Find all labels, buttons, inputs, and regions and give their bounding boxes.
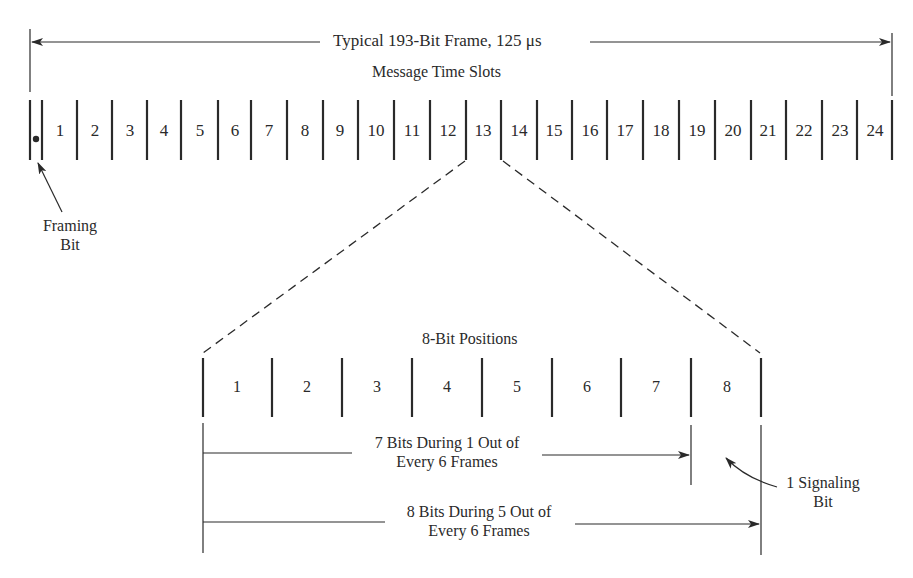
bit-number: 4 [443, 378, 451, 396]
seven-bit-caption: 7 Bits During 1 Out of Every 6 Frames [352, 433, 542, 471]
expansion-dashed-lines [203, 161, 760, 353]
slot-number: 1 [56, 121, 65, 141]
bit-number: 2 [303, 378, 311, 396]
bit-number: 6 [583, 378, 591, 396]
slot-number: 2 [91, 121, 100, 141]
bit-bars [203, 358, 761, 417]
slot-number: 4 [160, 121, 169, 141]
slot-number: 23 [832, 121, 849, 141]
framing-bit-dot [33, 136, 39, 142]
slot-number: 18 [653, 121, 670, 141]
bit-positions-title: 8-Bit Positions [422, 330, 518, 348]
bit-number: 5 [513, 378, 521, 396]
slot-number: 3 [126, 121, 135, 141]
slot-number: 6 [231, 121, 240, 141]
slot-number: 7 [265, 121, 274, 141]
slot-number: 14 [511, 121, 528, 141]
slot-number: 20 [725, 121, 742, 141]
eight-bit-caption: 8 Bits During 5 Out of Every 6 Frames [383, 502, 575, 540]
framing-bit-label: Framing Bit [30, 216, 110, 254]
slot-number: 10 [368, 121, 385, 141]
slot-number: 16 [582, 121, 599, 141]
slot-number-expanded: 13 [475, 121, 492, 141]
slot-number: 24 [867, 121, 884, 141]
seven-bit-caption-line1: 7 Bits During 1 Out of [352, 433, 542, 452]
slot-number: 11 [404, 121, 420, 141]
slot-number: 21 [760, 121, 777, 141]
slot-number: 19 [689, 121, 706, 141]
slot-number: 5 [196, 121, 205, 141]
seven-bit-caption-line2: Every 6 Frames [352, 452, 542, 471]
signaling-bit-arrow [726, 458, 777, 487]
bit-number-signaling: 8 [723, 378, 731, 396]
slot-number: 12 [440, 121, 457, 141]
slot-number: 8 [301, 121, 310, 141]
t1-frame-diagram: Typical 193-Bit Frame, 125 μs Message Ti… [0, 0, 913, 578]
bit-number: 1 [233, 378, 241, 396]
message-time-slots-label: Message Time Slots [372, 63, 501, 81]
framing-bit-arrow [38, 163, 62, 212]
framing-bit-label-line2: Bit [30, 235, 110, 254]
signaling-bit-label: 1 Signaling Bit [773, 473, 873, 511]
slot-number: 17 [617, 121, 634, 141]
eight-bit-caption-line1: 8 Bits During 5 Out of [383, 502, 575, 521]
slot-number: 22 [796, 121, 813, 141]
slot-number: 9 [336, 121, 345, 141]
frame-title: Typical 193-Bit Frame, 125 μs [330, 31, 545, 51]
eight-bit-caption-line2: Every 6 Frames [383, 521, 575, 540]
bit-number: 7 [652, 378, 660, 396]
bit-number: 3 [373, 378, 381, 396]
signaling-bit-label-line1: 1 Signaling [773, 473, 873, 492]
signaling-bit-label-line2: Bit [773, 492, 873, 511]
slot-number: 15 [546, 121, 563, 141]
framing-bit-label-line1: Framing [30, 216, 110, 235]
